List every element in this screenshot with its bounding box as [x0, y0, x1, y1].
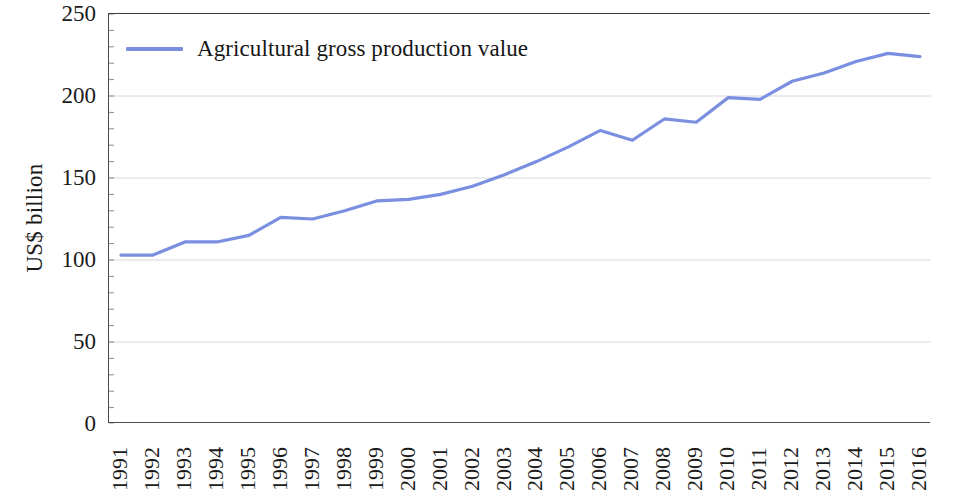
y-tick-label-100: 100: [10, 248, 96, 271]
plot-area: Agricultural gross production value: [108, 13, 930, 423]
y-tick-label-50: 50: [10, 330, 96, 353]
x-tick-label-2008: 2008: [652, 434, 674, 497]
x-tick-label-1996: 1996: [269, 434, 291, 497]
x-tick-label-2013: 2013: [812, 434, 834, 497]
x-tick-label-2006: 2006: [588, 434, 610, 497]
x-tick-label-2012: 2012: [780, 434, 802, 497]
x-tick-label-2009: 2009: [684, 434, 706, 497]
x-tick-label-1993: 1993: [173, 434, 195, 497]
x-tick-label-1994: 1994: [205, 434, 227, 497]
y-axis-tick-labels: 250200150100500: [8, 0, 96, 497]
x-tick-label-1998: 1998: [333, 434, 355, 497]
x-tick-label-1991: 1991: [109, 434, 131, 497]
x-tick-label-1992: 1992: [141, 434, 163, 497]
x-tick-label-1995: 1995: [237, 434, 259, 497]
x-tick-label-2004: 2004: [524, 434, 546, 497]
y-tick-label-250: 250: [10, 2, 96, 25]
y-tick-label-0: 0: [10, 412, 96, 435]
x-tick-label-2003: 2003: [493, 434, 515, 497]
x-tick-label-1999: 1999: [365, 434, 387, 497]
legend: Agricultural gross production value: [126, 36, 528, 62]
y-tick-label-150: 150: [10, 166, 96, 189]
x-tick-label-2002: 2002: [461, 434, 483, 497]
x-tick-label-2016: 2016: [908, 434, 930, 497]
y-tick-label-200: 200: [10, 84, 96, 107]
x-tick-label-1997: 1997: [301, 434, 323, 497]
series-line-0: [121, 53, 920, 255]
legend-entry-label: Agricultural gross production value: [197, 36, 528, 62]
x-tick-label-2000: 2000: [397, 434, 419, 497]
x-axis-tick-labels: 1991199219931994199519961997199819992000…: [108, 424, 930, 497]
x-tick-label-2001: 2001: [429, 434, 451, 497]
line-chart: US$ billion 250200150100500 Agricultural…: [0, 0, 954, 497]
x-tick-label-2011: 2011: [748, 434, 770, 497]
x-tick-label-2005: 2005: [556, 434, 578, 497]
x-tick-label-2010: 2010: [716, 434, 738, 497]
plot-svg: [109, 14, 931, 424]
x-tick-label-2015: 2015: [876, 434, 898, 497]
x-tick-label-2014: 2014: [844, 434, 866, 497]
legend-line-swatch-icon: [126, 47, 183, 51]
x-tick-label-2007: 2007: [620, 434, 642, 497]
